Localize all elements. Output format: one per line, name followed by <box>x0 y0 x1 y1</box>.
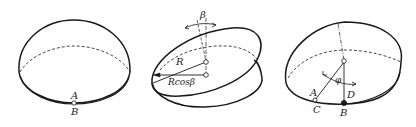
point-bd-marker <box>341 100 346 105</box>
label-a3: A <box>309 87 317 98</box>
disk-back-edge-dashed <box>20 46 130 72</box>
label-beta: β <box>199 9 206 20</box>
panel-b <box>152 18 262 107</box>
tilted-axis <box>197 20 206 61</box>
disk-c-top <box>286 22 402 83</box>
center-lower <box>204 73 209 78</box>
label-phi: φ <box>335 75 342 85</box>
disk-tilt-diagram: A B β R Rcosβ <box>0 0 416 127</box>
disk-c-back-dashed <box>288 50 401 78</box>
point-ab-marker <box>72 101 76 105</box>
point-ac-marker <box>313 98 317 102</box>
beta-arrow-right <box>212 23 216 27</box>
panel-c <box>286 22 402 106</box>
label-b1: B <box>70 106 78 117</box>
label-r: R <box>175 56 184 67</box>
label-rcosbeta: Rcosβ <box>167 77 195 87</box>
label-a1: A <box>70 90 78 101</box>
beta-angle-arc <box>185 24 216 28</box>
label-b3: B <box>339 107 347 118</box>
center-upper <box>204 60 209 65</box>
tilted-axis-c <box>338 24 344 60</box>
center-c <box>342 59 347 64</box>
label-d3: D <box>346 89 355 100</box>
label-c3: C <box>313 104 321 115</box>
disk-c-front <box>286 62 401 104</box>
